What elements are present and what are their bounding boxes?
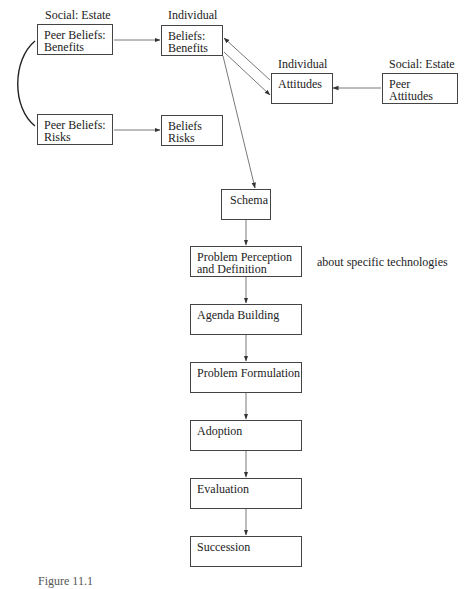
node-beliefs-benefits: Beliefs: Benefits xyxy=(161,25,223,56)
node-agenda-building: Agenda Building xyxy=(190,304,302,335)
node-peer-attitudes: Peer Attitudes xyxy=(382,73,458,104)
figure-caption: Figure 11.1 xyxy=(38,574,93,589)
node-schema: Schema xyxy=(221,189,271,220)
node-adoption: Adoption xyxy=(190,420,302,451)
node-evaluation: Evaluation xyxy=(190,478,302,509)
label-individual: Individual xyxy=(168,9,217,21)
node-problem-perception: Problem Perception and Definition xyxy=(190,246,302,277)
node-beliefs-risks: Beliefs Risks xyxy=(161,115,223,146)
arrow-benefits-to-schema xyxy=(223,56,255,188)
node-peer-beliefs-benefits: Peer Beliefs: Benefits xyxy=(37,24,113,55)
curve-peer-beliefs-link xyxy=(18,41,35,126)
node-peer-beliefs-risks: Peer Beliefs: Risks xyxy=(37,114,113,145)
node-succession: Succession xyxy=(190,536,302,567)
node-attitudes: Attitudes xyxy=(271,73,333,104)
node-problem-formulation: Problem Formulation xyxy=(190,362,302,393)
label-social-estate: Social: Estate xyxy=(45,9,111,21)
label-social-estate-attitudes: Social: Estate xyxy=(389,58,455,70)
label-individual-attitudes: Individual xyxy=(278,58,327,70)
note-specific-technologies: about specific technologies xyxy=(317,256,448,268)
